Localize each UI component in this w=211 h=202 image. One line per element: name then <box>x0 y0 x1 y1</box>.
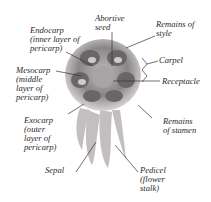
label-carpel: Carpel <box>159 56 183 65</box>
label-pedicel: Pedicel (flower stalk) <box>140 166 166 193</box>
label-sepal: Sepal <box>45 166 64 175</box>
pedicel-and-sepals <box>76 108 126 168</box>
label-remains-of-stamen: Remains of stamen <box>163 117 196 135</box>
label-exocarp: Exocarp (outer layer of pericarp) <box>24 116 56 152</box>
label-receptacle: Receptacle <box>162 77 200 86</box>
receptacle-center <box>92 66 114 88</box>
label-endocarp: Endocarp (inner layer of pericarp) <box>30 26 80 53</box>
label-mesocarp: Mesocarp (middle layer of pericarp) <box>16 66 50 102</box>
label-abortive-seed: Abortive seed <box>95 14 125 32</box>
label-remains-of-style: Remains of style <box>156 20 194 38</box>
